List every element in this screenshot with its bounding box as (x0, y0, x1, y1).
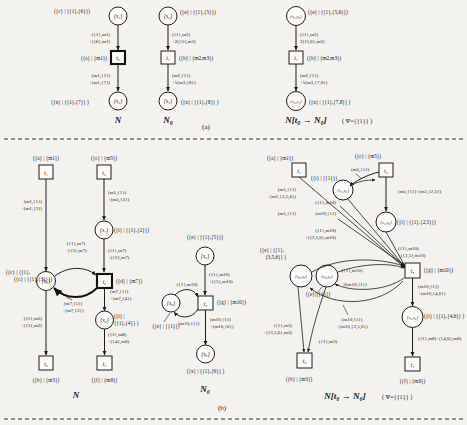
place-s3-label: ({e} | {{1},{5}}) (180, 9, 216, 16)
transition-t3b-name: t₃ (44, 361, 48, 367)
arc-s3b-t3b-label-1: ({1},m3) (24, 316, 43, 322)
arc-t0b-s3b-label-1: (m7,{1}) (64, 301, 83, 307)
panel-b-net-N: ({a} | {m1}) t₁ ({c} | {m5}) t₂ (m1,{1})… (6, 155, 149, 400)
arc-s1s6-t5s-label-3: ({1},m10) (315, 228, 336, 234)
arc-s1b-t0b-label-1: ({1},m7) (108, 248, 127, 254)
arc-s1s6-t5s-label-2: (m10,{1}) (315, 211, 336, 217)
arc-s1s6-t5s-label-1: ({1},m10) (315, 200, 336, 206)
place-s2s9-label: ({i} | {{1},{4,6}} ) (424, 313, 464, 320)
transition-t3b-label: ({b} | {m3}) (33, 377, 60, 384)
transition-t5-label: ({g} | {m10}) (217, 299, 246, 306)
arc-t5s-label-2: 2(m10,{1}) (343, 282, 367, 288)
arc-t5s-label-4: +(m10,{3,5,6}) (336, 324, 367, 330)
transition-t1-sub-name: t₁ (294, 55, 298, 61)
transition-t2b-name: t₂ (102, 170, 106, 176)
transition-t4s-name: t₄ (411, 362, 415, 368)
arc-s1s3-t1-label-2: 2({5,6},m3) (300, 39, 325, 45)
place-s3b-label-1: ({c} | {{1}, (6, 269, 30, 276)
arc-s2s9-t4s-label: ({1},m8)+({4,6},m8) (418, 336, 461, 342)
psi-a: ( Ψ={{1}} ) (342, 117, 372, 125)
place-s4-name: {s₄} (164, 98, 173, 105)
arc-t2b-s1b-label-2: +(m5,{2}) (108, 197, 129, 203)
place-s6-name: {s₆} (201, 253, 210, 260)
arc-s3s8a-t3s (298, 287, 304, 352)
arc-t0b-s2b-label-2: +(m7,{4}) (110, 296, 131, 302)
place-s1-label: ({c} | {{1},{6}}) (54, 8, 90, 15)
transition-t2b-label: ({c} | {m5}) (91, 155, 117, 162)
arc-t1b-s3b-label-2: +(m1,{3}) (21, 206, 42, 212)
leader-3 (356, 174, 362, 179)
place-s1b-name: {s₁} (100, 227, 109, 234)
transition-t1b-name: t₁ (44, 170, 48, 176)
transition-t4s-label: ({f} | {m8}) (400, 378, 426, 385)
arc-t5-s9-label-2: +(m10,{6}) (210, 324, 234, 330)
place-s6-label: ({e} | {{1},{5}}) (187, 234, 223, 241)
panel-b-caption: (b) (218, 404, 227, 412)
leader-2 (164, 313, 170, 322)
place-s2b-name: {s₂} (100, 317, 109, 324)
arc-s1s6b-t5s-label-2: +({2,5},m10) (398, 253, 426, 259)
caption-net-sub-a: N[t₀ → N₀] (284, 115, 326, 125)
panel-a-caption: (a) (202, 123, 210, 131)
transition-t0b-name: t₀ (103, 279, 107, 285)
psi-b: ( Ψ={{1}} ) (382, 393, 412, 401)
transition-t0b-label: ({d} | {m7}) (116, 278, 143, 285)
arc-t0-s2-label-1: (m1,{1}) (92, 73, 111, 79)
transition-t1s-name: t₁ (297, 168, 301, 174)
arc-t2s-s1s6b-label: (m5,{1})+(m5,{2,5}) (398, 189, 441, 195)
arc-s1s6-t5s (347, 198, 405, 267)
arc-t1b-s3b-label-1: (m1,{1}) (24, 199, 43, 205)
panel-a-net-N0: {s₃} ({e} | {{1},{5}}) ({1},m2) +2({5},m… (159, 7, 219, 125)
place-s9-label: ({x} | {{1},{6}} ) (187, 368, 225, 375)
transition-t4b-label: ({f} | {m8}) (92, 377, 118, 384)
transition-t5-name: t₅ (204, 301, 208, 307)
place-s2-name: {s₂} (114, 98, 123, 105)
arc-t5s-label-1: ({1},m10) (342, 268, 363, 274)
arc-s3b-t3b-label-2: +({3},m3) (21, 323, 42, 329)
arc-t1-s4-label-2: +5(m3,{8}) (172, 80, 196, 86)
arc-t0b-s3b-label-2: +(m7,{3}) (62, 308, 83, 314)
arc-s6-t5-label-1: ({1},m10) (209, 272, 230, 278)
transition-t1b-label: ({a} | {m1}) (33, 155, 59, 162)
arc-s3b-t0b-label-1: ({1},m7) (67, 241, 86, 247)
place-s1-name: {s₁} (114, 13, 123, 20)
arc-s1-t0-label-1: ({1},m1) (92, 32, 111, 38)
place-s1s6b-label: ({i} | {{1},{2,5}}) (397, 219, 436, 226)
transition-t0-name: t₀ (116, 55, 120, 61)
panel-a-net-N: {s₁} ({c} | {{1},{6}}) ({1},m1) +({6},m1… (51, 7, 127, 125)
transition-t0-label: ({a} | {m1}) (81, 55, 107, 62)
arc-s2b-t4b-label-2: +({4},m8) (108, 339, 129, 345)
arc-s3b-t0b-label-2: +({3},m7) (65, 248, 86, 254)
arc-s1b-t0b-label-2: +({2},m7) (108, 255, 129, 261)
place-s2b-label-1: ({i} | (114, 313, 124, 320)
leader-5 (343, 305, 348, 315)
arc-t0b-s3b (54, 288, 97, 297)
caption-net-N0-a: N₀ (162, 115, 173, 125)
arc-t1s-label-1: (m1,{1}) (278, 187, 297, 193)
arc-t2s-s1s6-label: (m5,{1}) (351, 167, 370, 173)
place-s1s3-label: ({e} | {{1},{5,6}}) (308, 9, 348, 16)
panel-b-net-N0: ({e} | {{1},{5}}) {s₆} ({1},m10) +({5},m… (153, 234, 247, 394)
transition-t3s-label: ({b} | {m3}) (286, 376, 313, 383)
arc-t0-s2-label-2: +(m1,{7}) (89, 80, 110, 86)
arc-s6-t5-label-2: +({5},m10) (209, 279, 233, 285)
arc-s3-t1-label-1: ({1},m2) (172, 32, 191, 38)
place-s1b-label: ({i} | {{1},{2}}) (114, 227, 149, 234)
place-s8-name: {s₈} (167, 300, 176, 307)
arc-t1-s4-label-1: (m2,{1}) (172, 73, 191, 79)
place-s2s4-label: ({x} | {{1},{7,8}} ) (309, 99, 351, 106)
arc-t3s-label-3: ({1},m3) (319, 339, 338, 345)
figure-canvas: {s₁} ({c} | {{1},{6}}) ({1},m1) +({6},m1… (0, 0, 467, 425)
arc-s8-t5-label: ({1},m10) (177, 282, 198, 288)
arc-t5-s9-label-1: (m10,{1}) (210, 317, 231, 323)
arc-s3-t1-label-2: +2({5},m3) (172, 39, 196, 45)
transition-t5s-name: t₅ (411, 268, 415, 274)
transition-t2s-label: ({c} | {m5}) (355, 153, 381, 160)
place-s3s8-label-2: {3,5,6}} ) (265, 254, 286, 261)
arc-t1s-label-3: (m1,{1}) (278, 211, 297, 217)
caption-net-sub-b: N[t₀ → N₀] (323, 391, 365, 401)
caption-net-N0-b: N₀ (199, 384, 210, 394)
arc-s1s3-t1-label-1: ({1},m2) (300, 32, 319, 38)
arc-s8-t5 (175, 290, 198, 297)
arc-t5-s8-label: (m10,{1}) (179, 321, 200, 327)
